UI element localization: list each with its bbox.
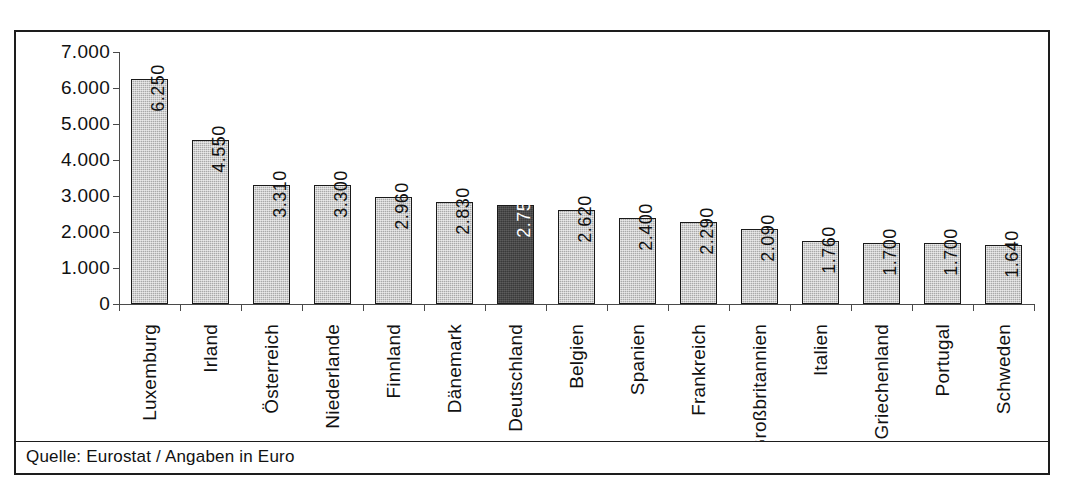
bar-value-label: 1.640 <box>1003 230 1021 278</box>
source-note: Quelle: Eurostat / Angaben in Euro <box>16 441 1048 473</box>
y-axis-tick-label: 0 <box>99 293 110 315</box>
x-axis-tick-mark <box>729 304 730 311</box>
y-axis-tick-label: 2.000 <box>61 221 110 243</box>
x-axis-category-label-text: Spanien <box>628 324 647 395</box>
scan-top-text-fragment <box>120 0 680 6</box>
x-axis-tick-mark <box>363 304 364 311</box>
x-axis-category-label-text: Irland <box>201 324 220 373</box>
y-axis-tick-label: 3.000 <box>61 185 110 207</box>
y-axis-tick-label: 7.000 <box>61 41 110 63</box>
bar: 1.700 <box>863 243 901 304</box>
x-axis-category-label-text: Niederlande <box>323 324 342 429</box>
bar: 2.090 <box>741 229 779 304</box>
bar-value-label: 2.090 <box>759 214 777 262</box>
x-axis-tick-mark <box>607 304 608 311</box>
x-axis-category-label-text: Luxemburg <box>140 324 159 421</box>
x-axis-tick-mark <box>241 304 242 311</box>
x-axis-category-label-text: Griechenland <box>872 324 891 439</box>
x-axis-category-label-text: Portugal <box>933 324 952 396</box>
x-axis-tick-mark <box>668 304 669 311</box>
x-axis-category-label-text: Finnland <box>384 324 403 398</box>
x-axis-category-label-text: Österreich <box>262 324 281 414</box>
bar: 2.830 <box>436 202 474 304</box>
bar-value-label: 6.250 <box>149 64 167 112</box>
bar: 1.700 <box>924 243 962 304</box>
bar: 2.960 <box>375 197 413 304</box>
x-axis-tick-mark <box>1034 304 1035 311</box>
x-axis-category-label-text: Italien <box>811 324 830 376</box>
bar: 2.750 <box>497 205 535 304</box>
y-axis-tick-label: 4.000 <box>61 149 110 171</box>
bar: 4.550 <box>192 140 230 304</box>
bar-value-label: 2.830 <box>454 187 472 235</box>
bar: 3.310 <box>253 185 291 304</box>
x-axis-tick-mark <box>119 304 120 311</box>
bar-value-label: 4.550 <box>210 125 228 173</box>
x-axis-tick-mark <box>180 304 181 311</box>
y-axis-tick-label: 1.000 <box>61 257 110 279</box>
x-axis-category-label-text: Frankreich <box>689 324 708 416</box>
bar-value-label: 1.760 <box>820 226 838 274</box>
bar-value-label: 2.290 <box>698 207 716 255</box>
x-axis-tick-mark <box>973 304 974 311</box>
bar-value-label: 3.310 <box>271 170 289 218</box>
bar-value-label: 2.960 <box>393 183 411 231</box>
bar-value-label: 2.620 <box>576 195 594 243</box>
bar-value-label: 2.400 <box>637 203 655 251</box>
x-axis-tick-mark <box>424 304 425 311</box>
x-axis-category-label-text: Belgien <box>567 324 586 389</box>
bar: 3.300 <box>314 185 352 304</box>
x-axis-tick-mark <box>302 304 303 311</box>
x-axis-category-label-text: Schweden <box>994 324 1013 414</box>
x-axis-tick-mark <box>485 304 486 311</box>
x-axis-category-label-text: Großbritannien <box>750 324 769 454</box>
bar-value-label: 2.750 <box>515 190 533 238</box>
bar: 1.760 <box>802 241 840 304</box>
y-axis-tick-label: 5.000 <box>61 113 110 135</box>
x-axis-line <box>119 304 1034 305</box>
bar: 1.640 <box>985 245 1023 304</box>
x-axis-tick-mark <box>790 304 791 311</box>
bar-value-label: 3.300 <box>332 170 350 218</box>
plot-area: 7.0006.0005.0004.0003.0002.0001.0000 6.2… <box>119 52 1034 304</box>
y-axis-tick-label: 6.000 <box>61 77 110 99</box>
bar: 2.400 <box>619 218 657 304</box>
bar: 2.290 <box>680 222 718 304</box>
x-axis-tick-mark <box>546 304 547 311</box>
bar-value-label: 1.700 <box>881 228 899 276</box>
scan-bottom-caption <box>32 483 1012 497</box>
chart-figure-frame: 7.0006.0005.0004.0003.0002.0001.0000 6.2… <box>14 30 1050 475</box>
bar: 6.250 <box>131 79 169 304</box>
x-axis-category-label-text: Deutschland <box>506 324 525 432</box>
x-axis-tick-mark <box>851 304 852 311</box>
bar: 2.620 <box>558 210 596 304</box>
bar-series: 6.2504.5503.3103.3002.9602.8302.7502.620… <box>119 52 1034 304</box>
x-axis-tick-mark <box>912 304 913 311</box>
x-axis-category-label-text: Dänemark <box>445 324 464 413</box>
bar-value-label: 1.700 <box>942 228 960 276</box>
